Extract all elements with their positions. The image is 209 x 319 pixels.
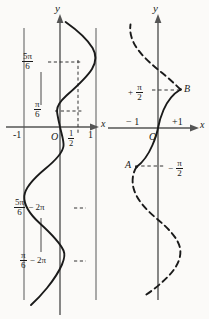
right-x-axis-arrow bbox=[190, 125, 199, 132]
right-x-tick-label-plus1: +1 bbox=[172, 117, 183, 127]
point-label-A: A bbox=[125, 160, 131, 170]
left-y-label-5pi6m2pi-denominator: 6 bbox=[14, 207, 25, 217]
left-y-label-5pi6m2pi-suffix: − 2π bbox=[28, 203, 44, 212]
right-x-tick-label-minus1: − 1 bbox=[126, 117, 139, 127]
left-x-axis-label: x bbox=[101, 119, 105, 129]
left-x-tick-label-minus1: -1 bbox=[13, 130, 21, 140]
left-y-label-5pi-over-6-minus-2pi: 5π 6 − 2π bbox=[14, 198, 45, 217]
right-y-mark-minus-sign: − bbox=[168, 164, 173, 173]
right-dashed-branch-upper bbox=[130, 25, 180, 90]
left-y-label-pi6m2pi-numerator: π bbox=[20, 251, 27, 260]
left-y-label-5pi-over-6-numerator: 5π bbox=[22, 52, 33, 61]
right-dashed-branch-lower bbox=[133, 167, 181, 297]
right-y-axis-arrow bbox=[155, 14, 162, 23]
left-y-label-pi6m2pi-denominator: 6 bbox=[20, 260, 27, 270]
left-y-axis-label: y bbox=[55, 3, 60, 14]
right-origin-label: O bbox=[149, 132, 156, 142]
left-y-label-pi-over-6-denominator: 6 bbox=[34, 109, 41, 119]
point-marker-B bbox=[179, 88, 182, 91]
point-label-B: B bbox=[184, 84, 190, 94]
left-y-label-pi6m2pi-suffix: − 2π bbox=[30, 256, 46, 265]
right-x-axis-label: x bbox=[200, 120, 204, 130]
left-y-axis-arrow bbox=[57, 14, 64, 23]
right-y-mark-minus-pi-numerator: π bbox=[176, 159, 183, 168]
left-origin-label: O bbox=[51, 132, 58, 142]
right-y-mark-plus-pi-numerator: π bbox=[136, 83, 143, 92]
right-y-mark-minus-pi-over-2: − π 2 bbox=[168, 159, 183, 178]
left-y-label-5pi-over-6: 5π 6 bbox=[22, 52, 33, 71]
left-y-label-pi-over-6-minus-2pi: π 6 − 2π bbox=[20, 251, 46, 270]
figure-canvas: y x -1 1 O 1 2 5π 6 π 6 5π 6 − 2π π bbox=[0, 0, 209, 319]
right-y-mark-minus-pi-denominator: 2 bbox=[176, 168, 183, 178]
left-x-tick-half-numerator: 1 bbox=[68, 129, 74, 138]
left-y-label-pi-over-6: π 6 bbox=[34, 100, 41, 119]
left-x-tick-half-denominator: 2 bbox=[68, 138, 74, 148]
right-y-mark-plus-pi-over-2: + π 2 bbox=[128, 83, 143, 102]
point-marker-A bbox=[135, 166, 138, 169]
left-x-tick-label-half: 1 2 bbox=[68, 129, 74, 147]
right-y-mark-plus-sign: + bbox=[128, 88, 133, 97]
right-y-axis-label: y bbox=[153, 3, 158, 14]
left-y-label-5pi-over-6-denominator: 6 bbox=[22, 61, 33, 71]
left-y-label-pi-over-6-numerator: π bbox=[34, 100, 41, 109]
left-x-tick-label-plus1: 1 bbox=[88, 130, 93, 140]
left-y-label-5pi6m2pi-numerator: 5π bbox=[14, 198, 25, 207]
right-y-mark-plus-pi-denominator: 2 bbox=[136, 92, 143, 102]
